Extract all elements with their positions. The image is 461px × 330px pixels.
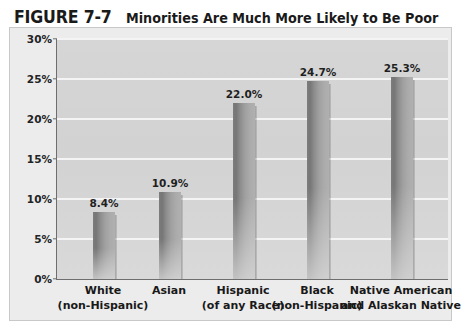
y-axis-tickmark bbox=[53, 78, 57, 79]
y-axis-tickmark bbox=[53, 38, 57, 39]
y-axis-tick-label: 25% bbox=[27, 73, 52, 85]
gridline bbox=[57, 78, 448, 80]
y-axis-tick-label: 20% bbox=[27, 113, 52, 125]
category-label-line-2: and Alaskan Native bbox=[341, 298, 461, 313]
y-axis-tickmark bbox=[53, 238, 57, 239]
x-axis-category-label: White(non-Hispanic) bbox=[58, 283, 149, 313]
bar-value-label: 25.3% bbox=[384, 62, 420, 74]
y-axis-tick-label: 30% bbox=[27, 33, 52, 45]
x-axis-labels: White(non-Hispanic)AsianHispanic(of any … bbox=[56, 283, 447, 321]
category-label-line-2: (non-Hispanic) bbox=[58, 298, 149, 313]
y-axis-tickmark bbox=[53, 118, 57, 119]
category-label-line-1: Black bbox=[300, 284, 333, 297]
figure-caption: Minorities Are Much More Likely to Be Po… bbox=[126, 12, 438, 25]
y-axis-tick-label: 15% bbox=[27, 153, 52, 165]
bar-value-label: 8.4% bbox=[89, 197, 118, 209]
plot-area: 0%5%10%15%20%25%30% 8.4%10.9%22.0%24.7%2… bbox=[56, 39, 448, 280]
chart-frame: 0%5%10%15%20%25%30% 8.4%10.9%22.0%24.7%2… bbox=[9, 27, 452, 321]
bar-value-label: 22.0% bbox=[226, 88, 262, 100]
gridline bbox=[57, 38, 448, 40]
x-axis-category-label: Native Americanand Alaskan Native bbox=[341, 283, 461, 313]
x-axis-category-label: Asian bbox=[152, 283, 186, 298]
y-axis-tickmark bbox=[53, 278, 57, 279]
category-label-line-1: Native American bbox=[350, 284, 453, 297]
bar-value-label: 24.7% bbox=[300, 66, 336, 78]
bar[interactable] bbox=[159, 192, 181, 279]
figure-title: FIGURE 7-7 Minorities Are Much More Like… bbox=[14, 4, 454, 26]
y-axis-tick-label: 0% bbox=[34, 273, 52, 285]
bar-value-label: 10.9% bbox=[152, 177, 188, 189]
y-axis-tickmark bbox=[53, 198, 57, 199]
y-axis-tick-label: 5% bbox=[34, 233, 52, 245]
y-axis-tickmark bbox=[53, 158, 57, 159]
figure-number: FIGURE 7-7 bbox=[14, 9, 112, 26]
category-label-line-1: White bbox=[85, 284, 121, 297]
category-label-line-1: Hispanic bbox=[217, 284, 270, 297]
y-axis-tick-label: 10% bbox=[27, 193, 52, 205]
category-label-line-1: Asian bbox=[152, 284, 186, 297]
bar[interactable] bbox=[307, 81, 329, 279]
bar[interactable] bbox=[93, 212, 115, 279]
bar[interactable] bbox=[391, 77, 413, 279]
bar[interactable] bbox=[233, 103, 255, 279]
